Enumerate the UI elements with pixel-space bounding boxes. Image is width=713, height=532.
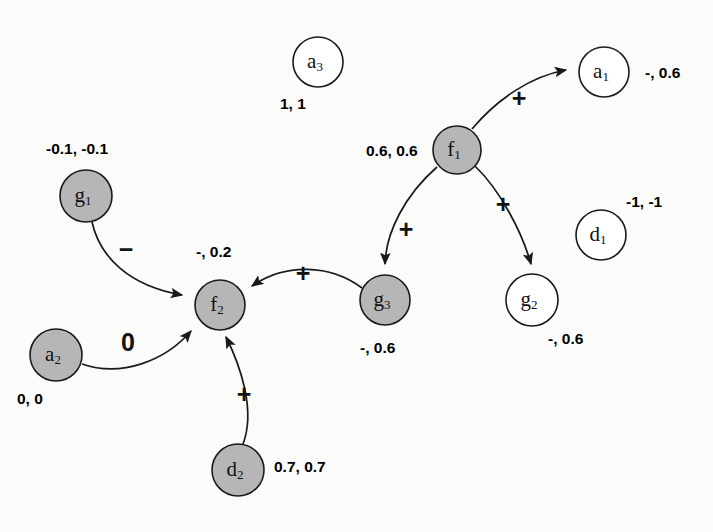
node-d2[interactable]: d2 (212, 444, 264, 496)
node-value-g2: -, 0.6 (548, 330, 583, 348)
node-layer: a3a1f1g1d1f2g3g2a2d2 (30, 37, 629, 496)
diagram-canvas: a3a1f1g1d1f2g3g2a2d2 ++++−0+ 1, 1-, 0.60… (0, 0, 713, 532)
edge-sign-g3-f2: + (296, 259, 311, 287)
edge-a2-f2 (82, 331, 191, 369)
edge-g1-f2 (92, 222, 182, 295)
node-a3[interactable]: a3 (293, 37, 343, 87)
node-a2[interactable]: a2 (30, 329, 82, 381)
node-a1[interactable]: a1 (579, 47, 629, 97)
node-value-a1: -, 0.6 (645, 64, 680, 82)
node-value-d2: 0.7, 0.7 (274, 458, 326, 476)
node-f1[interactable]: f1 (433, 126, 481, 174)
node-value-g3: -, 0.6 (360, 339, 395, 357)
node-f2[interactable]: f2 (195, 280, 245, 330)
edge-sign-f1-g2: + (496, 190, 511, 218)
edge-sign-g1-f2: − (119, 235, 134, 263)
node-value-f1: 0.6, 0.6 (366, 142, 418, 160)
node-g2[interactable]: g2 (506, 274, 558, 326)
edge-sign-f1-a1: + (512, 84, 527, 112)
node-value-f2: -, 0.2 (196, 243, 231, 261)
edge-sign-a2-f2: 0 (121, 328, 135, 356)
node-value-g1: -0.1, -0.1 (46, 140, 108, 158)
node-d1[interactable]: d1 (576, 210, 626, 260)
node-value-d1: -1, -1 (626, 193, 662, 211)
edge-sign-d2-f2: + (237, 380, 252, 408)
node-g3[interactable]: g3 (360, 275, 410, 325)
edge-layer (82, 70, 566, 444)
graph-svg: a3a1f1g1d1f2g3g2a2d2 ++++−0+ (0, 0, 713, 532)
node-value-a3: 1, 1 (280, 95, 306, 113)
node-value-a2: 0, 0 (17, 390, 43, 408)
edge-sign-f1-g3: + (399, 215, 414, 243)
node-g1[interactable]: g1 (60, 170, 112, 222)
